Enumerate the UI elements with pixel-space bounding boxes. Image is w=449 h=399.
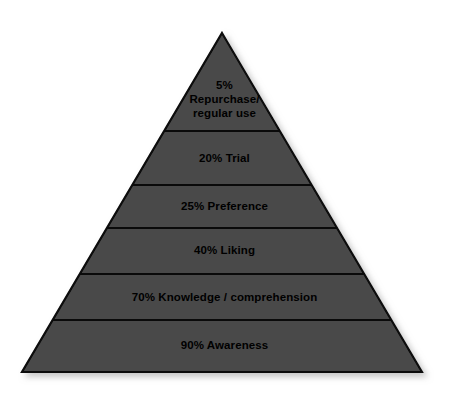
pyramid-outline bbox=[22, 33, 422, 372]
pyramid-diagram: 5% Repurchase/ regular use 20% Trial 25%… bbox=[0, 0, 449, 399]
pyramid-shape bbox=[0, 0, 449, 399]
